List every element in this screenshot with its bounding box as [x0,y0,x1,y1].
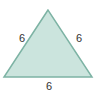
left-side-label: 6 [19,32,25,44]
bottom-side-label: 6 [46,80,52,91]
right-side-label: 6 [76,32,82,44]
triangle-diagram: 6 6 6 [0,0,96,91]
